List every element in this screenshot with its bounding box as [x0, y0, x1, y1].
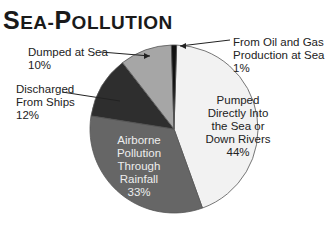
label-value: 12%	[16, 109, 75, 122]
label-text: Dumped at Sea	[28, 46, 108, 59]
label-text: From Ships	[16, 96, 75, 109]
label-dumped: Dumped at Sea 10%	[28, 46, 108, 72]
label-text: Production at Sea	[233, 49, 324, 62]
label-value: 10%	[28, 59, 108, 72]
label-text: Directly Into	[193, 107, 283, 120]
label-text: Discharged	[16, 83, 75, 96]
leader-line-oil	[180, 40, 230, 46]
label-value: 33%	[100, 186, 178, 199]
label-ships: Discharged From Ships 12%	[16, 83, 75, 122]
label-text: Through	[100, 160, 178, 173]
label-text: Down Rivers	[193, 133, 283, 146]
label-text: Airborne	[100, 134, 178, 147]
label-pumped: Pumped Directly Into the Sea or Down Riv…	[193, 94, 283, 159]
label-value: 44%	[193, 146, 283, 159]
label-text: the Sea or	[193, 120, 283, 133]
label-text: From Oil and Gas	[233, 36, 324, 49]
label-value: 1%	[233, 62, 324, 75]
label-text: Pollution	[100, 147, 178, 160]
label-airborne: Airborne Pollution Through Rainfall 33%	[100, 134, 178, 199]
label-text: Rainfall	[100, 173, 178, 186]
label-text: Pumped	[193, 94, 283, 107]
label-oil: From Oil and Gas Production at Sea 1%	[233, 36, 324, 75]
